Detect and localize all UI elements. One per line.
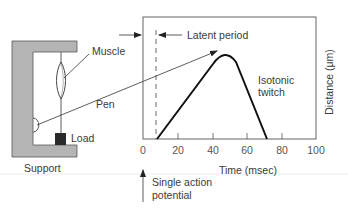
stimulus-label-line2: potential xyxy=(152,189,192,201)
x-tick-0: 0 xyxy=(140,144,146,156)
x-tick-20: 20 xyxy=(172,144,184,156)
isotonic-twitch-diagram: Support Muscle Load Pen 0 20 40 60 80 10… xyxy=(0,0,348,218)
x-axis-label: Time (msec) xyxy=(219,164,277,176)
load-weight xyxy=(55,133,66,145)
y-axis-label: Distance (μm) xyxy=(323,49,335,115)
x-tick-100: 100 xyxy=(307,144,325,156)
support-label: Support xyxy=(24,162,61,174)
pen-label: Pen xyxy=(96,98,115,110)
muscle-icon xyxy=(57,62,66,99)
twitch-label-line1: Isotonic xyxy=(258,74,294,86)
load-label: Load xyxy=(71,132,95,144)
x-tick-80: 80 xyxy=(276,144,288,156)
muscle-label: Muscle xyxy=(92,45,125,57)
muscle-pointer xyxy=(64,54,89,78)
x-tick-40: 40 xyxy=(207,144,219,156)
x-tick-60: 60 xyxy=(241,144,253,156)
stimulus-label-line1: Single action xyxy=(152,176,212,188)
latent-period-label: Latent period xyxy=(187,29,248,41)
support-bracket xyxy=(12,41,77,157)
twitch-label-line2: twitch xyxy=(258,86,285,98)
twitch-curve xyxy=(157,55,267,139)
